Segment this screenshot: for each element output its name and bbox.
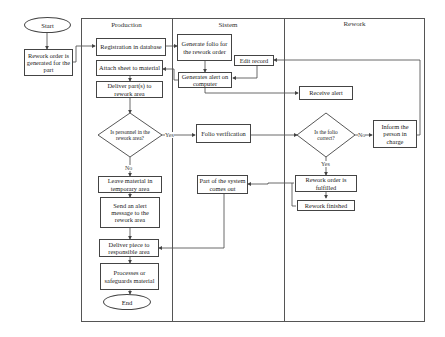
inform-person-box[interactable]: Inform the person in charge [373, 120, 417, 148]
personnel-decision-text[interactable]: Is personnel in the rework area? [104, 127, 156, 143]
lane-divider-2 [284, 18, 285, 322]
generates-alert-box[interactable]: Generates alert on computer [178, 72, 232, 88]
edit-record-box[interactable]: Edit record [234, 55, 274, 66]
deliver-piece-box[interactable]: Deliver piece to responsible area [99, 239, 159, 257]
lane-title-rework: Rework [284, 20, 425, 28]
send-alert-box[interactable]: Send an alert message to the rework area [100, 197, 160, 228]
leave-material-box[interactable]: Leave material in temporary area [98, 176, 162, 193]
end-terminal[interactable]: End [103, 294, 151, 310]
lane-divider-1 [172, 18, 173, 322]
folio-decision-text[interactable]: Is the folio correct? [308, 127, 344, 143]
personnel-no-label: No [125, 165, 132, 171]
personnel-yes-label: Yes [165, 132, 174, 138]
deliver-parts-box[interactable]: Deliver part(s) to rework area [96, 81, 163, 98]
attach-sheet-box[interactable]: Attach sheet to material [96, 60, 163, 76]
lane-title-production: Production [81, 21, 172, 29]
folio-verification-box[interactable]: Folio verification [196, 124, 251, 143]
lane-title-system: Sistem [172, 21, 284, 29]
processes-box[interactable]: Processes or safeguards material [100, 263, 159, 290]
rework-finished-box[interactable]: Rework finished [297, 200, 355, 211]
folio-yes-label: Yes [321, 161, 330, 167]
part-comes-out-box[interactable]: Part of the system comes out [197, 175, 248, 194]
generate-folio-box[interactable]: Generate folio for the rework order [177, 34, 232, 61]
order-fulfilled-box[interactable]: Rework order is fulfilled [295, 175, 357, 192]
folio-no-label: No [358, 132, 365, 138]
registration-box[interactable]: Registration in database [96, 38, 166, 56]
receive-alert-box[interactable]: Receive alert [299, 86, 353, 100]
start-terminal[interactable]: Start [24, 17, 71, 33]
rework-order-box[interactable]: Rework order is generated for the part [24, 49, 73, 76]
